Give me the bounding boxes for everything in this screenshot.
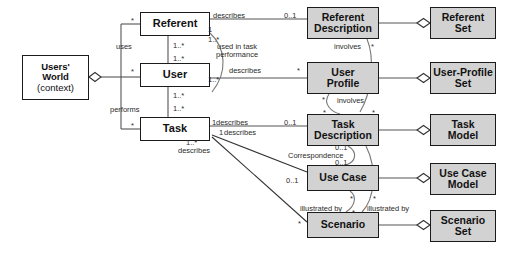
multiplicity-use-case-bottom-star: * — [350, 194, 353, 203]
multiplicity-correspondence-bottom: 0..1 — [335, 158, 348, 167]
node-referent-set-line2: Set — [455, 23, 471, 34]
node-user-profile[interactable]: User Profile — [307, 62, 379, 94]
multiplicity-referent-used-in-task: 1..* — [208, 35, 219, 44]
node-referent-description[interactable]: Referent Description — [307, 7, 379, 39]
node-users-world[interactable]: Users' World (context) — [22, 55, 89, 100]
label-describes-referent: describes — [213, 11, 245, 20]
multiplicity-scenario-right-star: * — [373, 194, 376, 203]
node-user-label: User — [163, 69, 187, 81]
multiplicity-task-description-01: 0..1 — [284, 118, 297, 127]
aggregation-diamond-user-profile-set — [417, 74, 430, 83]
multiplicity-referent-description-01: 0..1 — [284, 11, 297, 20]
node-users-world-line3: (context) — [37, 83, 74, 93]
multiplicity-user-left: * — [131, 67, 134, 76]
aggregation-diamond-scenario-set — [417, 221, 430, 230]
node-referent-label: Referent — [153, 18, 198, 30]
multiplicity-scenario-in-star: * — [352, 208, 355, 217]
multiplicity-user-describes: 1..* — [208, 75, 219, 84]
label-illustrated-by-left: illustrated by — [300, 204, 342, 213]
uml-class-diagram: Users' World (context) Referent User Tas… — [0, 0, 516, 256]
multiplicity-use-case-left: 0..1 — [286, 176, 299, 185]
label-describes-scenario: describes — [178, 146, 210, 155]
multiplicity-referent-left: * — [131, 16, 134, 25]
node-referent-description-line2: Description — [314, 23, 372, 34]
label-uses: uses — [116, 42, 132, 51]
multiplicity-referent-describes-1: 1 — [208, 25, 212, 34]
node-task-model-line2: Model — [448, 130, 478, 141]
multiplicity-scenario-left-star: * — [298, 219, 301, 228]
multiplicity-performs-bottom: 1..* — [173, 104, 184, 113]
node-task-description[interactable]: Task Description — [307, 114, 379, 146]
node-use-case-label: Use Case — [319, 172, 366, 183]
node-user[interactable]: User — [140, 63, 210, 87]
node-user-profile-line2: Profile — [327, 78, 360, 89]
label-involves-top: involves — [334, 42, 361, 51]
multiplicity-uses-top: 1..* — [173, 41, 184, 50]
node-use-case[interactable]: Use Case — [307, 165, 379, 191]
multiplicity-task-scenario: 1..* — [186, 138, 197, 147]
node-scenario-set[interactable]: Scenario Set — [430, 210, 496, 242]
label-illustrated-by-right: illustrated by — [367, 204, 409, 213]
aggregation-diamond-referent-set — [417, 19, 430, 28]
label-used-in-task-performance: used in task performance — [216, 43, 258, 59]
label-involves-bottom: involves — [337, 96, 364, 105]
node-use-case-model-line2: Model — [448, 179, 478, 190]
node-task[interactable]: Task — [140, 117, 210, 141]
multiplicity-user-profile-star: * — [297, 66, 300, 75]
node-use-case-model[interactable]: Use Case Model — [430, 163, 496, 195]
node-task-description-line2: Description — [314, 130, 372, 141]
node-referent[interactable]: Referent — [140, 12, 210, 36]
multiplicity-involves-top-star: * — [371, 42, 374, 51]
multiplicity-task-left: * — [131, 121, 134, 130]
node-user-profile-set[interactable]: User-Profile Set — [430, 62, 496, 94]
multiplicity-uses-bottom: 1..* — [173, 54, 184, 63]
node-task-label: Task — [163, 123, 187, 135]
node-scenario-set-line2: Set — [455, 226, 471, 237]
node-scenario-label: Scenario — [321, 219, 365, 230]
multiplicity-task-describes-1: 1 — [212, 118, 216, 127]
multiplicity-performs-top: 1..* — [173, 91, 184, 100]
node-referent-set[interactable]: Referent Set — [430, 7, 496, 39]
node-user-profile-set-line2: Set — [455, 78, 471, 89]
multiplicity-involves-down-star: * — [323, 108, 326, 117]
label-describes-user: describes — [229, 66, 261, 75]
node-scenario[interactable]: Scenario — [307, 212, 379, 238]
aggregation-diamond-use-case-model — [417, 174, 430, 183]
multiplicity-involves-right-star: * — [372, 108, 375, 117]
node-task-model[interactable]: Task Model — [430, 114, 496, 146]
label-performs: performs — [110, 105, 140, 114]
aggregation-diamond-task-model — [417, 126, 430, 135]
multiplicity-involves-up-star: * — [322, 95, 325, 104]
label-describes-use-case: describes — [224, 128, 256, 137]
multiplicity-correspondence-top: 0..1 — [335, 143, 348, 152]
multiplicity-task-use-case-1: 1 — [219, 128, 223, 137]
aggregation-diamond-users-world — [89, 73, 101, 82]
label-describes-task: describes — [216, 118, 248, 127]
